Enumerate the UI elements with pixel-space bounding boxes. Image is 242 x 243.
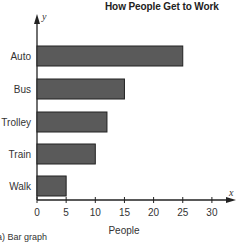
- bar-walk: [37, 176, 66, 196]
- bar-bus: [37, 79, 124, 99]
- tick-label: 20: [148, 207, 160, 218]
- y-axis-variable: y: [41, 11, 47, 22]
- bars-group: [37, 46, 183, 196]
- category-label-auto: Auto: [10, 51, 31, 62]
- category-label-walk: Walk: [9, 181, 32, 192]
- y-axis-arrow-icon: [34, 14, 40, 24]
- tick-label: 10: [90, 207, 102, 218]
- tick-label: 0: [34, 207, 40, 218]
- x-axis-variable: x: [228, 187, 234, 198]
- tick-label: 15: [119, 207, 131, 218]
- bar-chart: y x AutoBusTrolleyTrainWalk 051015202530…: [0, 0, 242, 243]
- tick-label: 5: [63, 207, 69, 218]
- bar-auto: [37, 46, 183, 66]
- category-label-bus: Bus: [14, 84, 31, 95]
- category-labels: AutoBusTrolleyTrainWalk: [1, 51, 32, 192]
- tick-label: 30: [206, 207, 218, 218]
- figure-caption: (a) Bar graph: [0, 232, 47, 242]
- bar-train: [37, 144, 95, 164]
- bar-trolley: [37, 112, 107, 132]
- tick-label: 25: [177, 207, 189, 218]
- category-label-train: Train: [9, 149, 31, 160]
- x-axis-label: People: [108, 225, 140, 236]
- category-label-trolley: Trolley: [1, 117, 31, 128]
